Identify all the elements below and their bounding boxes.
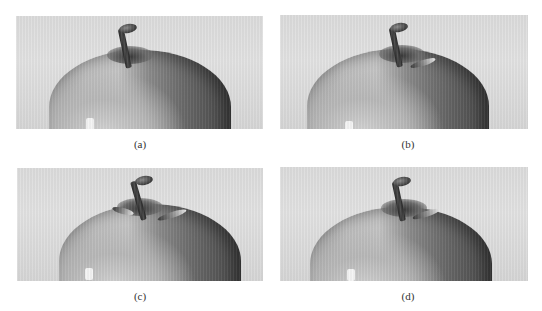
stem-cap — [392, 176, 411, 188]
specular-highlight — [345, 121, 353, 129]
specular-highlight — [86, 118, 94, 129]
stem-cap — [118, 23, 137, 35]
stem-cap — [134, 175, 153, 187]
specular-highlight — [347, 269, 355, 281]
figure-panel-b — [280, 15, 528, 129]
caption-b: (b) — [378, 138, 438, 150]
specular-highlight — [85, 268, 93, 280]
caption-d: (d) — [378, 290, 438, 302]
figure-panel-d — [280, 167, 528, 281]
caption-c: (c) — [110, 290, 170, 302]
stem-cap — [389, 22, 408, 34]
caption-a: (a) — [110, 138, 170, 150]
figure-panel-a — [16, 16, 263, 129]
figure-panel-c — [17, 168, 263, 281]
